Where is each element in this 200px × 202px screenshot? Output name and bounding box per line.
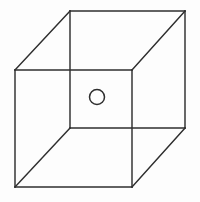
cube-diagram <box>0 0 200 202</box>
figure-container: Wireframe Cube With Center Circle <box>0 0 200 202</box>
